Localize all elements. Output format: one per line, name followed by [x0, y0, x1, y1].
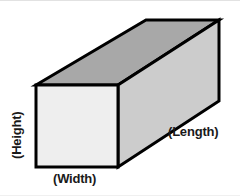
- diagram-canvas: (Height) (Width) (Length): [0, 0, 240, 196]
- length-dimension-label: (Length): [168, 125, 218, 138]
- height-dimension-label: (Height): [10, 112, 23, 160]
- rectangular-prism-figure: [0, 1, 240, 196]
- width-dimension-label: (Width): [53, 172, 96, 185]
- prism-front-face: [36, 85, 118, 167]
